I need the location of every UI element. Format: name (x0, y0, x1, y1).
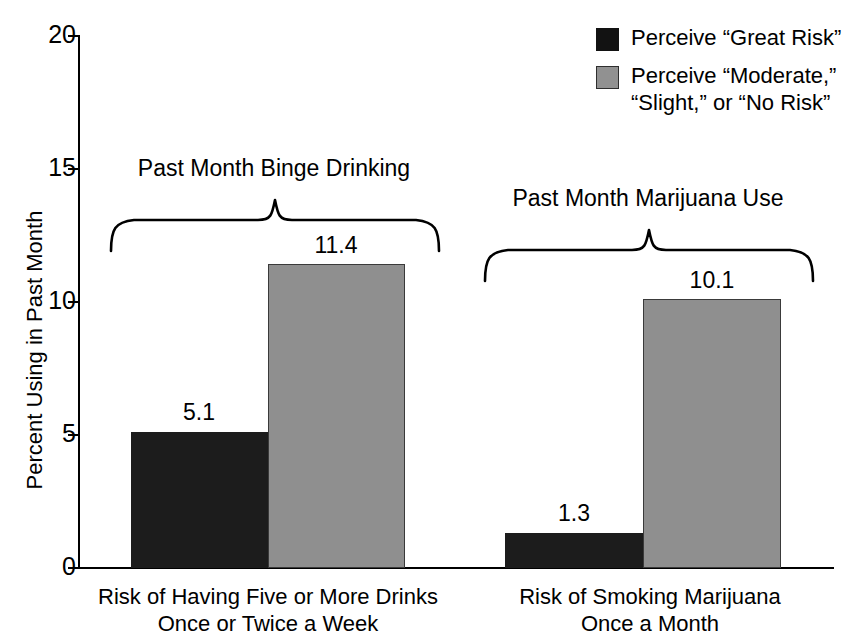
y-tick-label-20: 20 (16, 22, 76, 47)
y-axis-title: Percent Using in Past Month (22, 155, 48, 545)
legend-label-moderate-risk: Perceive “Moderate,” “Slight,” or “No Ri… (631, 62, 836, 116)
bar-g2-great-risk (505, 533, 643, 568)
bar-value-label-g1-dark: 5.1 (131, 399, 267, 426)
x-category-label-1-line1: Risk of Having Five or More Drinks (78, 583, 458, 610)
legend-item-moderate-risk: Perceive “Moderate,” “Slight,” or “No Ri… (596, 62, 842, 116)
legend-swatch-dark-icon (596, 28, 619, 51)
bar-value-label-g2-dark: 1.3 (505, 500, 643, 527)
bar-value-label-g1-gray: 11.4 (268, 232, 404, 259)
x-category-label-1-line2: Once or Twice a Week (78, 610, 458, 635)
chart-legend: Perceive “Great Risk” Perceive “Moderate… (596, 24, 842, 127)
y-tick-label-15: 15 (16, 155, 76, 180)
bar-g2-moderate-risk (643, 299, 781, 568)
x-category-label-2-line2: Once a Month (460, 610, 840, 635)
y-tick-label-10: 10 (16, 288, 76, 313)
x-category-label-2: Risk of Smoking Marijuana Once a Month (460, 583, 840, 635)
legend-swatch-gray-icon (596, 66, 619, 89)
bar-g1-moderate-risk (268, 264, 405, 568)
legend-item-great-risk: Perceive “Great Risk” (596, 24, 842, 51)
group-bracket-label-2: Past Month Marijuana Use (484, 185, 812, 212)
bar-g1-great-risk (131, 432, 268, 568)
y-tick-label-0: 0 (16, 554, 76, 579)
y-tick-label-5: 5 (16, 421, 76, 446)
x-category-label-1: Risk of Having Five or More Drinks Once … (78, 583, 458, 635)
x-category-label-2-line1: Risk of Smoking Marijuana (460, 583, 840, 610)
legend-label-great-risk: Perceive “Great Risk” (631, 24, 841, 51)
bar-chart: Percent Using in Past Month 20 15 10 5 0… (0, 0, 842, 635)
group-bracket-label-1: Past Month Binge Drinking (110, 155, 438, 182)
bar-value-label-g2-gray: 10.1 (643, 267, 781, 294)
